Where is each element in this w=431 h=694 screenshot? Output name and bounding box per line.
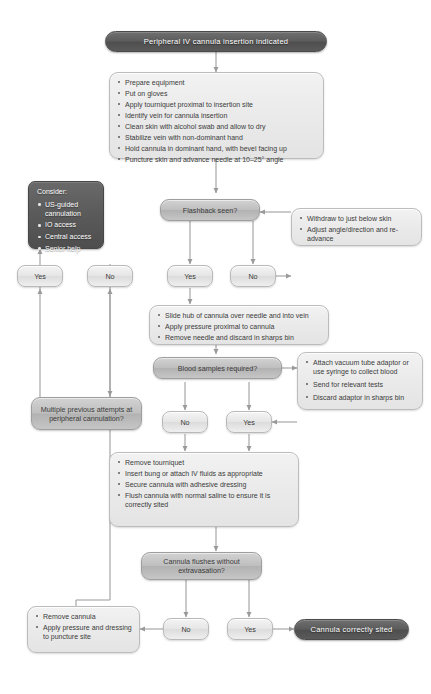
- branch-left-yes[interactable]: Yes: [17, 265, 63, 287]
- node-slide-hub-list: Slide hub of cannula over needle and int…: [156, 311, 321, 342]
- list-item: Flush cannula with normal saline to ensu…: [125, 491, 291, 510]
- node-end-label: Cannula correctly sited: [310, 625, 392, 634]
- list-item: Senior help: [45, 244, 96, 253]
- branch-left-yes-label: Yes: [34, 272, 46, 281]
- node-flashback-seen-label: Flashback seen?: [183, 206, 237, 215]
- list-item: Apply pressure and dressing to puncture …: [43, 623, 132, 642]
- branch-flashback-no-label: No: [248, 272, 257, 281]
- node-vacuum-adaptor[interactable]: Attach vacuum tube adaptor or use syring…: [297, 352, 423, 410]
- list-item: Adjust angle/direction and re-advance: [307, 225, 414, 244]
- list-item: Discard adaptor in sharps bin: [313, 393, 415, 402]
- node-start-label: Peripheral IV cannula insertion indicate…: [144, 37, 289, 46]
- branch-flushes-yes-label: Yes: [244, 625, 256, 634]
- list-item: Apply tourniquet proximal to insertion s…: [125, 100, 316, 109]
- node-flashback-seen[interactable]: Flashback seen?: [160, 199, 260, 221]
- node-multiple-attempts[interactable]: Multiple previous attempts at peripheral…: [31, 397, 142, 430]
- list-item: Secure cannula with adhesive dressing: [125, 480, 291, 489]
- flowchart-canvas: Peripheral IV cannula insertion indicate…: [0, 0, 431, 694]
- list-item: Withdraw to just below skin: [307, 214, 414, 223]
- node-remove-tourniquet[interactable]: Remove tourniquet Insert bung or attach …: [109, 452, 299, 527]
- list-item: Insert bung or attach IV fluids as appro…: [125, 469, 291, 478]
- list-item: Put on gloves: [125, 89, 316, 98]
- list-item: Clean skin with alcohol swab and allow t…: [125, 122, 316, 131]
- branch-bloods-no[interactable]: No: [162, 411, 208, 433]
- branch-flashback-yes[interactable]: Yes: [167, 265, 213, 287]
- node-remove-tourniquet-list: Remove tourniquet Insert bung or attach …: [116, 458, 291, 510]
- branch-bloods-yes[interactable]: Yes: [226, 411, 272, 433]
- branch-flushes-yes[interactable]: Yes: [227, 618, 273, 640]
- list-item: Remove cannula: [43, 612, 132, 621]
- list-item: Apply pressure proximal to cannula: [165, 322, 321, 331]
- list-item: Slide hub of cannula over needle and int…: [165, 311, 321, 320]
- list-item: Send for relevant tests: [313, 380, 415, 389]
- node-end[interactable]: Cannula correctly sited: [294, 619, 409, 640]
- node-vacuum-adaptor-list: Attach vacuum tube adaptor or use syring…: [304, 358, 415, 402]
- list-item: Puncture skin and advance needle at 10–2…: [125, 155, 316, 164]
- branch-flushes-no[interactable]: No: [163, 618, 209, 640]
- node-consider-list: US-guided cannulation IO access Central …: [36, 200, 96, 253]
- list-item: Central access: [45, 232, 96, 241]
- list-item: Remove needle and discard in sharps bin: [165, 333, 321, 342]
- node-withdraw[interactable]: Withdraw to just below skin Adjust angle…: [291, 208, 422, 246]
- list-item: Identify vein for cannula insertion: [125, 111, 316, 120]
- node-multiple-attempts-label: Multiple previous attempts at peripheral…: [32, 405, 141, 423]
- node-cannula-flushes-label: Cannula flushes without extravasation?: [142, 557, 261, 575]
- branch-flashback-yes-label: Yes: [184, 272, 196, 281]
- list-item: Attach vacuum tube adaptor or use syring…: [313, 358, 415, 377]
- node-remove-cannula-list: Remove cannula Apply pressure and dressi…: [34, 612, 132, 642]
- branch-bloods-yes-label: Yes: [243, 418, 255, 427]
- branch-flashback-no[interactable]: No: [230, 265, 276, 287]
- branch-flushes-no-label: No: [181, 625, 190, 634]
- node-blood-samples-required-label: Blood samples required?: [178, 364, 258, 373]
- node-prepare-list: Prepare equipment Put on gloves Apply to…: [116, 78, 316, 164]
- node-consider-header: Consider:: [37, 188, 96, 197]
- node-withdraw-list: Withdraw to just below skin Adjust angle…: [298, 214, 414, 244]
- node-consider[interactable]: Consider: US-guided cannulation IO acces…: [28, 181, 104, 249]
- node-blood-samples-required[interactable]: Blood samples required?: [153, 357, 282, 379]
- list-item: Remove tourniquet: [125, 458, 291, 467]
- node-start[interactable]: Peripheral IV cannula insertion indicate…: [105, 31, 327, 52]
- node-prepare-equipment[interactable]: Prepare equipment Put on gloves Apply to…: [109, 72, 324, 159]
- list-item: Hold cannula in dominant hand, with beve…: [125, 144, 316, 153]
- branch-bloods-no-label: No: [180, 418, 189, 427]
- list-item: Prepare equipment: [125, 78, 316, 87]
- branch-left-no-label: No: [105, 272, 114, 281]
- node-remove-cannula[interactable]: Remove cannula Apply pressure and dressi…: [27, 606, 140, 653]
- node-slide-hub[interactable]: Slide hub of cannula over needle and int…: [149, 305, 329, 345]
- branch-left-no[interactable]: No: [87, 265, 133, 287]
- list-item: IO access: [45, 220, 96, 229]
- node-cannula-flushes[interactable]: Cannula flushes without extravasation?: [141, 552, 262, 580]
- list-item: US-guided cannulation: [45, 200, 96, 218]
- list-item: Stabilize vein with non-dominant hand: [125, 133, 316, 142]
